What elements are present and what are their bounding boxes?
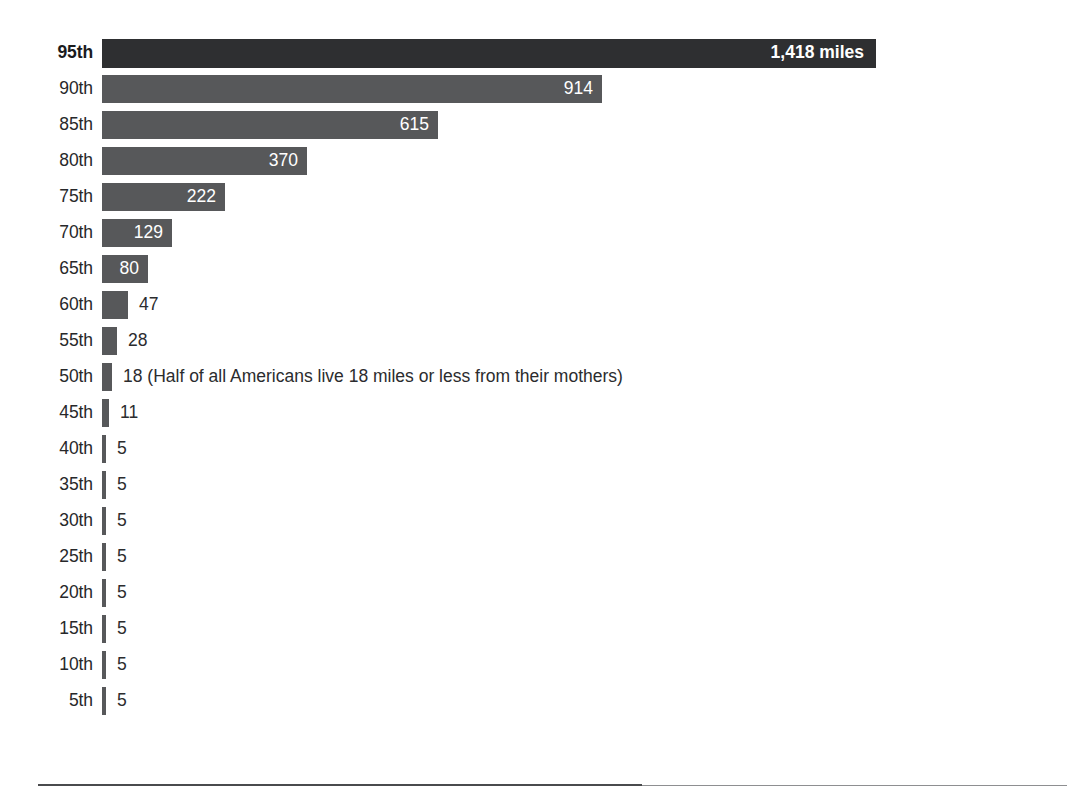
percentile-label: 30th: [0, 512, 93, 530]
bar-wrapper: 222: [102, 182, 225, 212]
bar-row: 20th5: [0, 578, 909, 608]
bar-row: 75th222: [0, 182, 909, 212]
percentile-label: 40th: [0, 440, 93, 458]
bar-value-label: 370: [269, 152, 307, 170]
bar-row: 95th1,418 miles: [0, 38, 909, 68]
bar-wrapper: 129: [102, 218, 172, 248]
percentile-label: 65th: [0, 260, 93, 278]
bar-rows-container: 95th1,418 miles90th91485th61580th37075th…: [0, 38, 909, 722]
bar-wrapper: 28: [102, 326, 147, 356]
percentile-label: 35th: [0, 476, 93, 494]
bar-wrapper: 5: [102, 614, 127, 644]
percentile-label: 60th: [0, 296, 93, 314]
bar: [102, 399, 109, 427]
percentile-label: 50th: [0, 368, 93, 386]
bar: 1,418 miles: [102, 39, 876, 68]
bar-wrapper: 914: [102, 74, 602, 104]
bar: 129: [102, 219, 172, 247]
bar-value-label: 11: [120, 404, 138, 422]
bar: [102, 651, 106, 679]
bar-value-label: 18 (Half of all Americans live 18 miles …: [123, 368, 623, 386]
percentile-label: 75th: [0, 188, 93, 206]
bar-wrapper: 5: [102, 542, 127, 572]
percentile-label: 5th: [0, 692, 93, 710]
bar-wrapper: 5: [102, 650, 127, 680]
bar-wrapper: 5: [102, 470, 127, 500]
bar: 222: [102, 183, 225, 211]
bar-value-label: 5: [117, 440, 127, 458]
bar-value-label: 5: [117, 512, 127, 530]
bar-row: 10th5: [0, 650, 909, 680]
bar: 80: [102, 255, 148, 283]
bar: 615: [102, 111, 438, 139]
bar-value-label: 5: [117, 692, 127, 710]
percentile-label: 10th: [0, 656, 93, 674]
bar-value-label: 80: [120, 260, 148, 278]
bar: [102, 579, 106, 607]
bar-wrapper: 1,418 miles: [102, 38, 876, 68]
bar-value-label: 914: [564, 80, 602, 98]
bar-row: 45th11: [0, 398, 909, 428]
bar-value-label: 5: [117, 476, 127, 494]
bar-wrapper: 47: [102, 290, 158, 320]
bar-row: 80th370: [0, 146, 909, 176]
bar-row: 90th914: [0, 74, 909, 104]
bar: [102, 435, 106, 463]
percentile-label: 70th: [0, 224, 93, 242]
bar-row: 15th5: [0, 614, 909, 644]
percentile-label: 20th: [0, 584, 93, 602]
bar-value-label: 615: [400, 116, 438, 134]
bar-value-label: 222: [187, 188, 225, 206]
bar-row: 65th80: [0, 254, 909, 284]
bar-wrapper: 370: [102, 146, 307, 176]
percentile-label: 45th: [0, 404, 93, 422]
bar-wrapper: 11: [102, 398, 138, 428]
bar: [102, 507, 106, 535]
bar-value-label: 129: [134, 224, 172, 242]
bar-row: 30th5: [0, 506, 909, 536]
bar: [102, 687, 106, 715]
bar-value-label: 28: [128, 332, 147, 350]
bar: [102, 615, 106, 643]
bar: [102, 471, 106, 499]
bar-value-label: 47: [139, 296, 158, 314]
bar-value-label: 5: [117, 584, 127, 602]
bar-row: 35th5: [0, 470, 909, 500]
percentile-label: 55th: [0, 332, 93, 350]
bar: 370: [102, 147, 307, 175]
bar-wrapper: 5: [102, 506, 127, 536]
bar-wrapper: 5: [102, 686, 127, 716]
percentile-label: 85th: [0, 116, 93, 134]
bar-wrapper: 5: [102, 578, 127, 608]
footer-divider: [38, 784, 642, 786]
bar-row: 25th5: [0, 542, 909, 572]
percentile-label: 95th: [0, 44, 93, 62]
bar: [102, 363, 112, 391]
bar: 914: [102, 75, 602, 103]
footer-divider-light: [642, 785, 1067, 786]
bar-wrapper: 5: [102, 434, 127, 464]
bar-row: 5th5: [0, 686, 909, 716]
bar-row: 60th47: [0, 290, 909, 320]
bar-value-label: 5: [117, 656, 127, 674]
bar-value-label: 5: [117, 620, 127, 638]
bar-wrapper: 18 (Half of all Americans live 18 miles …: [102, 362, 623, 392]
bar-wrapper: 615: [102, 110, 438, 140]
percentile-label: 25th: [0, 548, 93, 566]
bar: [102, 543, 106, 571]
percentile-label: 15th: [0, 620, 93, 638]
bar: [102, 291, 128, 319]
bar-row: 40th5: [0, 434, 909, 464]
bar-value-label: 1,418 miles: [771, 44, 876, 62]
bar-row: 50th18 (Half of all Americans live 18 mi…: [0, 362, 909, 392]
bar-row: 70th129: [0, 218, 909, 248]
bar: [102, 327, 117, 355]
bar-wrapper: 80: [102, 254, 148, 284]
bar-value-label: 5: [117, 548, 127, 566]
percentile-label: 80th: [0, 152, 93, 170]
bar-row: 85th615: [0, 110, 909, 140]
bar-row: 55th28: [0, 326, 909, 356]
percentile-label: 90th: [0, 80, 93, 98]
